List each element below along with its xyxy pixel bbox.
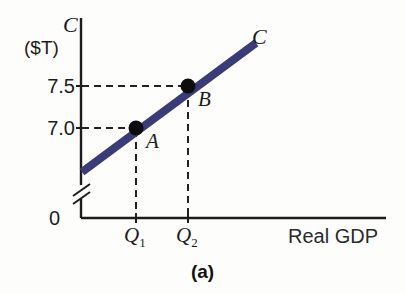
x-tick-label-q2-letter: Q — [176, 223, 191, 247]
consumption-function-figure: C ($T) 7.5 7.0 0 Q1 Q2 Real GDP A B C (a… — [0, 0, 405, 294]
data-point-b — [181, 79, 196, 94]
x-tick-label-q1-letter: Q — [124, 223, 139, 247]
y-axis-unit-label: ($T) — [24, 38, 59, 57]
x-tick-label-q2-subscript: 2 — [191, 235, 198, 250]
consumption-curve — [82, 43, 256, 172]
data-point-a — [129, 121, 144, 136]
point-b-label: B — [198, 89, 211, 110]
point-a-label: A — [146, 131, 159, 152]
y-axis-title: C — [63, 14, 78, 36]
y-tick-label-7-0: 7.0 — [23, 118, 75, 138]
x-axis-title: Real GDP — [288, 226, 378, 246]
x-tick-label-q2: Q2 — [176, 225, 198, 249]
x-tick-label-q1-subscript: 1 — [139, 235, 146, 250]
y-tick-label-7-5: 7.5 — [23, 76, 75, 96]
x-tick-label-q1: Q1 — [124, 225, 146, 249]
plot-area — [0, 0, 405, 294]
origin-label: 0 — [49, 208, 60, 228]
panel-caption: (a) — [0, 262, 405, 281]
curve-label: C — [252, 26, 267, 48]
